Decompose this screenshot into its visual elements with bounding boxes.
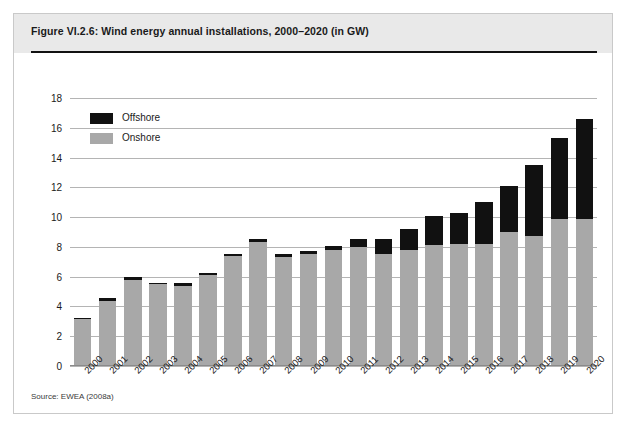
bar-column (576, 98, 594, 366)
bar-segment-offshore (74, 318, 92, 319)
page-title: Figure VI.2.6: Wind energy annual instal… (31, 25, 369, 37)
bar-segment-offshore (149, 283, 167, 284)
bar-segment-offshore (224, 254, 242, 256)
bar-segment-onshore (350, 247, 368, 366)
y-axis-tick-label: 14 (18, 152, 62, 163)
bar-column (525, 98, 543, 366)
bar-segment-offshore (525, 165, 543, 236)
bar-segment-onshore (400, 250, 418, 366)
x-axis-labels: 2000200120022003200420052006200720082009… (70, 368, 597, 408)
y-axis-tick-label: 10 (18, 212, 62, 223)
bar-segment-onshore (551, 219, 569, 366)
bar-segment-onshore (576, 219, 594, 366)
bar-column (275, 98, 293, 366)
bar-segment-offshore (350, 239, 368, 246)
bar-segment-offshore (199, 273, 217, 275)
bar-column (350, 98, 368, 366)
bar-segment-offshore (124, 277, 142, 279)
y-axis-tick-label: 6 (18, 271, 62, 282)
bar-column (199, 98, 217, 366)
bar-segment-offshore (450, 213, 468, 244)
legend-label-onshore: Onshore (122, 132, 160, 143)
bar-column (450, 98, 468, 366)
bar-segment-onshore (525, 236, 543, 366)
bar-segment-onshore (275, 257, 293, 366)
bar-segment-offshore (475, 202, 493, 244)
bar-column (224, 98, 242, 366)
bar-segment-onshore (249, 242, 267, 366)
bar-segment-onshore (224, 256, 242, 366)
y-axis-tick-label: 16 (18, 122, 62, 133)
bar-segment-offshore (425, 216, 443, 246)
bar-segment-onshore (475, 244, 493, 366)
bar-segment-offshore (174, 283, 192, 285)
legend-swatch-offshore (90, 113, 113, 124)
bar-segment-offshore (300, 251, 318, 254)
bar-segment-onshore (174, 286, 192, 366)
bar-column (249, 98, 267, 366)
bar-segment-offshore (400, 229, 418, 250)
bar-segment-offshore (249, 239, 267, 242)
bar-segment-offshore (576, 119, 594, 219)
bar-segment-onshore (199, 275, 217, 366)
bar-segment-onshore (99, 301, 117, 367)
bar-segment-onshore (325, 250, 343, 366)
bar-segment-offshore (99, 298, 117, 300)
bar-segment-offshore (500, 186, 518, 232)
bar-column (425, 98, 443, 366)
bar-column (300, 98, 318, 366)
bar-segment-onshore (375, 254, 393, 366)
bar-segment-onshore (149, 284, 167, 366)
legend-swatch-onshore (90, 133, 113, 144)
source-note: Source: EWEA (2008a) (31, 392, 114, 401)
bar-column (325, 98, 343, 366)
bar-segment-offshore (325, 246, 343, 250)
bar-segment-onshore (425, 245, 443, 366)
bar-segment-onshore (500, 232, 518, 366)
bar-column (74, 98, 92, 366)
bar-segment-onshore (74, 319, 92, 366)
bar-segment-onshore (124, 280, 142, 366)
bar-segment-onshore (300, 254, 318, 366)
bar-column (400, 98, 418, 366)
y-axis-tick-label: 8 (18, 241, 62, 252)
bar-column (500, 98, 518, 366)
bar-column (475, 98, 493, 366)
bar-column (375, 98, 393, 366)
bar-segment-offshore (551, 138, 569, 218)
y-axis-tick-label: 2 (18, 331, 62, 342)
y-axis-tick-label: 4 (18, 301, 62, 312)
y-axis-tick-label: 12 (18, 182, 62, 193)
bar-segment-onshore (450, 244, 468, 366)
y-axis-tick-label: 18 (18, 93, 62, 104)
y-axis-tick-label: 0 (18, 361, 62, 372)
bar-column (174, 98, 192, 366)
title-rule (31, 51, 597, 53)
bar-column (551, 98, 569, 366)
legend-label-offshore: Offshore (122, 112, 160, 123)
figure-frame: Figure VI.2.6: Wind energy annual instal… (13, 13, 613, 414)
bar-segment-offshore (375, 239, 393, 254)
bar-segment-offshore (275, 254, 293, 258)
y-axis-labels: 024681012141618 (14, 98, 62, 366)
